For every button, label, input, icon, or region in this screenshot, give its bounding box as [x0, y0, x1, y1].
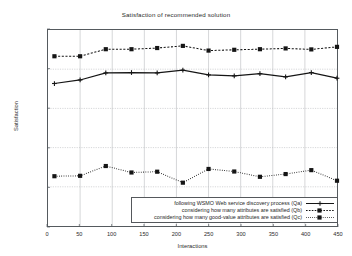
- chart-legend: following WSMO Web service discovery pro…: [131, 197, 338, 223]
- legend-label-qa: following WSMO Web service discovery pro…: [174, 200, 302, 206]
- legend-sample-qa: [305, 200, 335, 207]
- legend-label-qb: considering how many attributes are sati…: [182, 207, 302, 213]
- legend-item-qc[interactable]: considering how many good-value attribut…: [134, 214, 335, 221]
- legend-sample-qc: [305, 214, 335, 221]
- legend-label-qc: considering how many good-value attribut…: [154, 214, 302, 220]
- legend-item-qb[interactable]: considering how many attributes are sati…: [134, 207, 335, 214]
- legend-sample-qb: [305, 207, 335, 214]
- chart-figure: Satisfaction of recommended solution Sat…: [0, 0, 352, 256]
- legend-item-qa[interactable]: following WSMO Web service discovery pro…: [134, 200, 335, 207]
